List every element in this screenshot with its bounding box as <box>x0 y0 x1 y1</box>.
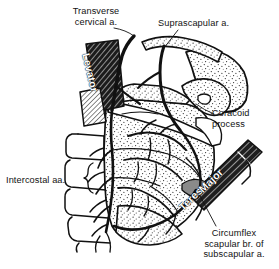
label-line: process <box>212 119 245 129</box>
label-circumflex-scapular-branch: Circumflexscapular br. ofsubscapular a. <box>190 228 278 260</box>
label-line: Transverse <box>73 6 120 16</box>
label-line: subscapular a. <box>203 249 264 259</box>
label-transverse-cervical-artery: Transversecervical a. <box>54 6 138 27</box>
label-line: scapular br. of <box>204 239 263 249</box>
superior-bone-bar <box>142 37 222 62</box>
leader-transverse-cervical <box>114 28 134 36</box>
label-coracoid-process: Coracoidprocess <box>212 108 274 129</box>
label-line: Circumflex <box>212 228 256 238</box>
label-line: Coracoid <box>212 108 250 118</box>
label-line: Suprascapular a. <box>158 18 229 28</box>
label-suprascapular-artery: Suprascapular a. <box>158 18 266 29</box>
label-line: cervical a. <box>75 17 117 27</box>
label-line: Intercostal aa. <box>6 175 65 185</box>
label-intercostal-arteries: Intercostal aa. <box>6 175 90 186</box>
anatomy-figure: Transversecervical a. Suprascapular a. C… <box>0 0 279 269</box>
